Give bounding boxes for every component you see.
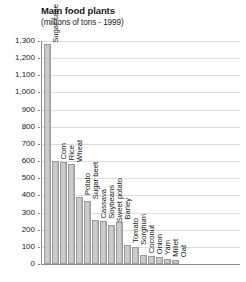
y-axis-tick-mark [38, 264, 40, 265]
bar[interactable] [92, 220, 99, 264]
y-axis-tick-mark [38, 41, 40, 42]
bar[interactable] [148, 256, 155, 264]
chart-title-block: Main food plants (millions of tons - 199… [41, 5, 231, 28]
bar-item[interactable]: Soybeans [100, 41, 107, 264]
y-axis: 01002003004005006007008009001,0001,1001,… [0, 41, 38, 264]
bar-item[interactable]: Cassava [92, 41, 99, 264]
bar-item[interactable]: Rice [60, 41, 67, 264]
bar[interactable] [52, 161, 59, 264]
bar-item[interactable]: Millet [164, 41, 171, 264]
y-axis-tick-mark [38, 213, 40, 214]
bar[interactable] [68, 164, 75, 264]
plot-area: Sugar caneCornRiceWheatPotatoSugar beetC… [41, 41, 240, 265]
bar[interactable] [60, 162, 67, 264]
bar-item[interactable]: Sorghum [132, 41, 139, 264]
bar[interactable] [124, 245, 131, 264]
y-axis-tick-mark [38, 110, 40, 111]
y-axis-tick-mark [38, 58, 40, 59]
y-axis-tick-label: 100 [22, 243, 35, 251]
bar-item[interactable]: Coconut [140, 41, 147, 264]
y-axis-tick-label: 500 [22, 174, 35, 182]
y-axis-tick-label: 1,300 [15, 37, 35, 45]
bar[interactable] [76, 197, 83, 264]
chart-subtitle: (millions of tons - 1999) [41, 17, 231, 28]
bar[interactable] [156, 257, 163, 264]
y-axis-tick-label: 1,100 [15, 71, 35, 79]
y-axis-tick-label: 700 [22, 140, 35, 148]
bar[interactable] [84, 201, 91, 264]
bar[interactable] [140, 255, 147, 264]
y-axis-tick-label: 1,000 [15, 88, 35, 96]
chart-container: Main food plants (millions of tons - 199… [0, 0, 246, 282]
y-axis-tick-mark [38, 144, 40, 145]
bar[interactable] [132, 247, 139, 264]
bar-item[interactable]: Tomato [124, 41, 131, 264]
bar-series: Sugar caneCornRiceWheatPotatoSugar beetC… [43, 41, 240, 264]
bar[interactable] [100, 221, 107, 264]
bar[interactable] [164, 259, 171, 264]
bar-item[interactable]: Yam [156, 41, 163, 264]
bar-category-label: Oat [180, 245, 188, 257]
bar-item[interactable]: Onion [148, 41, 155, 264]
bar-item[interactable]: Sugar beet [84, 41, 91, 264]
bar-item[interactable]: Sugar cane [44, 41, 51, 264]
bar-item[interactable]: Oat [172, 41, 179, 264]
y-axis-tick-label: 600 [22, 157, 35, 165]
y-axis-tick-mark [38, 195, 40, 196]
y-axis-tick-label: 900 [22, 106, 35, 114]
y-axis-tick-mark [38, 92, 40, 93]
bar[interactable] [44, 44, 51, 264]
y-axis-tick-mark [38, 127, 40, 128]
y-axis-tick-mark [38, 230, 40, 231]
bar[interactable] [172, 260, 179, 264]
bar-item[interactable]: Potato [76, 41, 83, 264]
y-axis-tick-label: 200 [22, 226, 35, 234]
y-axis-tick-label: 800 [22, 123, 35, 131]
bar[interactable] [108, 225, 115, 264]
bar-category-label: Sugar cane [52, 4, 60, 43]
y-axis-tick-label: 0 [31, 260, 35, 268]
bar-item[interactable]: Barley [116, 41, 123, 264]
y-axis-tick-mark [38, 161, 40, 162]
bar-item[interactable]: Corn [52, 41, 59, 264]
y-axis-tick-label: 400 [22, 191, 35, 199]
y-axis-tick-mark [38, 75, 40, 76]
page-title: Main food plants [41, 5, 231, 17]
bar-item[interactable]: Sweet potato [108, 41, 115, 264]
bar-item[interactable]: Wheat [68, 41, 75, 264]
bar[interactable] [116, 222, 123, 264]
y-axis-tick-mark [38, 247, 40, 248]
y-axis-tick-label: 300 [22, 209, 35, 217]
y-axis-tick-label: 1,200 [15, 54, 35, 62]
y-axis-tick-mark [38, 178, 40, 179]
